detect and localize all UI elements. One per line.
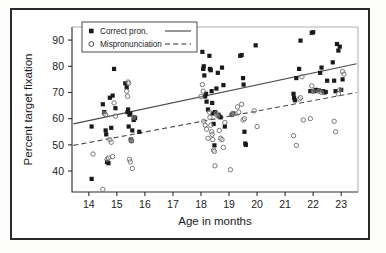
x-tick-label: 15 (111, 198, 123, 210)
data-point-mispronunciation (237, 110, 241, 114)
data-point-mispronunciation (239, 102, 243, 106)
data-point-mispronunciation (200, 82, 204, 86)
data-point-mispronunciation (209, 123, 213, 127)
data-point-mispronunciation (124, 89, 128, 93)
data-point-mispronunciation (231, 111, 235, 115)
data-point-correct (90, 177, 94, 181)
data-point-correct (291, 92, 295, 96)
data-point-correct (332, 79, 336, 83)
data-point-correct (220, 65, 224, 69)
data-point-correct (325, 79, 329, 83)
fit-line-mispronunciation (73, 92, 356, 145)
data-point-mispronunciation (110, 154, 114, 158)
y-tick-label: 60 (52, 112, 64, 124)
data-point-correct (216, 71, 220, 75)
data-point-mispronunciation (213, 164, 217, 168)
data-point-mispronunciation (112, 101, 116, 105)
data-points (90, 30, 347, 191)
legend-label: Mispronunciation (100, 40, 162, 49)
y-tick-label: 80 (52, 60, 64, 72)
data-point-mispronunciation (208, 115, 212, 119)
legend-label: Correct pron. (100, 27, 148, 36)
data-point-mispronunciation (206, 136, 210, 140)
data-point-mispronunciation (103, 113, 107, 117)
data-point-correct (90, 124, 94, 128)
data-point-mispronunciation (221, 145, 225, 149)
data-point-mispronunciation (131, 115, 135, 119)
data-point-correct (254, 43, 258, 47)
scatter-plot: 40506070809014151617181920212223Age in m… (0, 0, 386, 253)
data-point-mispronunciation (319, 90, 323, 94)
data-point-correct (319, 65, 323, 69)
data-point-mispronunciation (211, 137, 215, 141)
data-point-correct (336, 48, 340, 52)
data-point-correct (297, 67, 301, 71)
data-point-mispronunciation (125, 94, 129, 98)
data-point-correct (242, 130, 246, 134)
data-point-mispronunciation (201, 89, 205, 93)
data-point-correct (128, 111, 132, 115)
data-point-correct (112, 67, 116, 71)
data-point-correct (331, 60, 335, 64)
x-tick-label: 20 (251, 198, 263, 210)
data-point-correct (212, 143, 216, 147)
data-point-correct (127, 124, 131, 128)
y-tick-label: 40 (52, 165, 64, 177)
data-point-mispronunciation (217, 128, 221, 132)
legend-marker-correct (89, 29, 94, 34)
data-point-mispronunciation (332, 119, 336, 123)
data-point-correct (104, 132, 108, 136)
x-tick-label: 16 (139, 198, 151, 210)
x-tick-label: 23 (335, 198, 347, 210)
y-tick-label: 70 (52, 86, 64, 98)
data-point-mispronunciation (113, 114, 117, 118)
data-point-mispronunciation (235, 105, 239, 109)
data-point-mispronunciation (342, 72, 346, 76)
data-point-mispronunciation (308, 116, 312, 120)
data-point-mispronunciation (333, 130, 337, 134)
data-point-correct (210, 101, 214, 105)
data-point-correct (126, 107, 130, 111)
data-point-mispronunciation (311, 89, 315, 93)
data-point-mispronunciation (109, 140, 113, 144)
chart-legend: Correct pron.Mispronunciation (82, 22, 197, 52)
data-point-correct (204, 100, 208, 104)
data-point-correct (113, 106, 117, 110)
axis-labels: 40506070809014151617181920212223Age in m… (22, 34, 347, 227)
data-point-mispronunciation (298, 96, 302, 100)
data-point-correct (210, 89, 214, 93)
data-point-correct (104, 128, 108, 132)
data-point-mispronunciation (91, 152, 95, 156)
data-point-mispronunciation (223, 120, 227, 124)
data-point-correct (137, 130, 141, 134)
data-point-correct (130, 128, 134, 132)
data-point-mispronunciation (210, 132, 214, 136)
data-point-correct (241, 76, 245, 80)
data-point-mispronunciation (291, 133, 295, 137)
data-point-mispronunciation (301, 118, 305, 122)
data-point-mispronunciation (207, 110, 211, 114)
data-point-correct (200, 50, 204, 54)
y-tick-label: 90 (52, 34, 64, 46)
data-point-mispronunciation (126, 81, 130, 85)
data-point-mispronunciation (106, 156, 110, 160)
data-point-mispronunciation (220, 137, 224, 141)
y-tick-label: 50 (52, 139, 64, 151)
y-axis-title: Percent target fixation (22, 54, 34, 166)
data-point-mispronunciation (228, 168, 232, 172)
data-point-correct (318, 71, 322, 75)
data-point-mispronunciation (242, 116, 246, 120)
data-point-correct (202, 64, 206, 68)
data-point-mispronunciation (130, 166, 134, 170)
data-point-mispronunciation (212, 149, 216, 153)
data-point-correct (207, 54, 211, 58)
data-point-correct (214, 86, 218, 90)
data-point-mispronunciation (128, 160, 132, 164)
x-tick-label: 19 (223, 198, 235, 210)
x-tick-label: 14 (83, 198, 95, 210)
x-tick-label: 17 (167, 198, 179, 210)
data-point-mispronunciation (294, 143, 298, 147)
data-point-correct (324, 90, 328, 94)
data-point-correct (221, 83, 225, 87)
data-point-correct (101, 102, 105, 106)
